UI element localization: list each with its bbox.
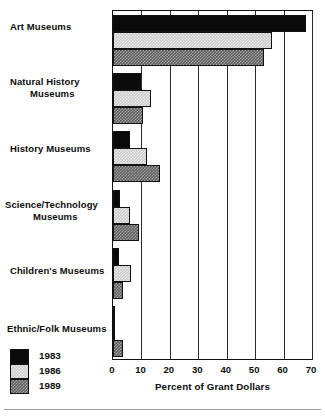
bar-1983-children's-museums xyxy=(113,248,119,265)
category-label-natural-history-line2: Museums xyxy=(30,88,75,100)
category-label-history-museums: History Museums xyxy=(10,143,91,155)
bar-1989-ethnic-folk-museums xyxy=(113,340,123,357)
x-tick-label: 40 xyxy=(214,364,238,375)
bar-1989-history-museums xyxy=(113,165,160,182)
bar-1986-science-technology-museums xyxy=(113,207,130,224)
category-label-science-technology-line1: Science/Technology xyxy=(5,199,98,211)
legend-label-1986: 1986 xyxy=(39,365,61,376)
bar-1983-science-technology-museums xyxy=(113,190,120,207)
category-label-ethnic-folk-museums: Ethnic/Folk Museums xyxy=(7,323,107,335)
bar-1986-natural-history-museums xyxy=(113,90,151,107)
bar-1983-ethnic-folk-museums xyxy=(113,306,115,323)
bar-1989-natural-history-museums xyxy=(113,107,143,124)
legend-swatch-1986-icon xyxy=(10,364,29,379)
x-tick-label: 10 xyxy=(128,364,152,375)
bar-1986-history-museums xyxy=(113,148,147,165)
gridline xyxy=(312,11,313,359)
bar-1986-children's-museums xyxy=(113,265,131,282)
legend-label-1983: 1983 xyxy=(39,350,61,361)
x-tick-label: 50 xyxy=(242,364,266,375)
page-bottom-rule xyxy=(4,409,321,410)
x-axis-title: Percent of Grant Dollars xyxy=(112,381,313,392)
bar-1983-natural-history-museums xyxy=(113,73,141,90)
bar-1989-science-technology-museums xyxy=(113,224,139,241)
legend-swatch-1983-icon xyxy=(10,349,29,364)
category-label-natural-history-line1: Natural History xyxy=(10,76,80,88)
x-tick-label: 70 xyxy=(299,364,323,375)
plot-area xyxy=(112,10,313,360)
x-tick-label: 20 xyxy=(157,364,181,375)
category-label-childrens-museums: Children's Museums xyxy=(10,265,104,277)
x-tick-label: 30 xyxy=(185,364,209,375)
bar-1986-art-museums xyxy=(113,32,272,49)
x-tick-label: 60 xyxy=(271,364,295,375)
x-tick-label: 0 xyxy=(100,364,124,375)
legend-label-1989: 1989 xyxy=(39,380,61,391)
bar-1989-art-museums xyxy=(113,49,264,66)
legend-swatch-1989-icon xyxy=(10,379,29,394)
bar-chart-figure: Art Museums Natural History Museums Hist… xyxy=(0,0,325,417)
category-label-science-technology-line2: Museums xyxy=(33,211,78,223)
bar-1986-ethnic-folk-museums xyxy=(113,323,115,340)
bar-1983-art-museums xyxy=(113,15,306,32)
gridline xyxy=(284,11,285,359)
bar-1989-children's-museums xyxy=(113,282,123,299)
bar-1983-history-museums xyxy=(113,131,130,148)
category-label-art-museums: Art Museums xyxy=(10,21,71,33)
